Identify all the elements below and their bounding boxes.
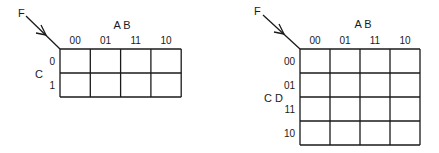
column-header: 11	[131, 35, 142, 46]
karnaugh-maps-diagram: F A B C 00011110 01 F A B C D 00011110 0…	[0, 0, 439, 153]
row-variables-label: C D	[264, 92, 283, 104]
kmap-grid	[60, 49, 181, 97]
column-variables-label: A B	[113, 19, 130, 31]
column-header: 01	[100, 35, 112, 46]
column-header: 01	[339, 35, 351, 46]
column-header: 10	[399, 35, 411, 46]
row-header: 01	[284, 80, 296, 91]
column-header: 00	[70, 35, 82, 46]
column-header: 10	[160, 35, 172, 46]
row-header: 00	[284, 56, 296, 67]
row-header: 11	[285, 104, 296, 115]
function-label: F	[18, 7, 25, 19]
kmap-grid	[300, 49, 420, 145]
function-label: F	[254, 5, 261, 17]
row-header: 10	[284, 128, 296, 139]
row-header: 1	[49, 80, 55, 91]
row-variables-label: C	[35, 68, 43, 80]
kmap-4-variable: F A B C D 00011110 00011110	[254, 5, 420, 145]
column-header: 00	[309, 35, 321, 46]
kmap-3-variable: F A B C 00011110 01	[18, 7, 181, 97]
column-variables-label: A B	[354, 18, 371, 30]
column-header: 11	[370, 35, 381, 46]
function-arrow	[263, 15, 300, 49]
function-arrow	[26, 16, 60, 49]
row-header: 0	[49, 56, 55, 67]
